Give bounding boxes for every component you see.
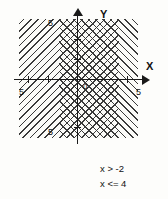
legend-swatch-back-hatch xyxy=(38,177,98,191)
x-tick-neg5 xyxy=(28,76,29,83)
y-axis-label: Y xyxy=(100,10,107,19)
origin-label: 0 xyxy=(83,82,87,91)
x-tick-label-right: 5 xyxy=(136,88,141,97)
plot-area xyxy=(19,19,138,138)
y-axis-line xyxy=(77,13,78,144)
x-axis-line xyxy=(14,79,144,80)
x-tick-neg3 xyxy=(48,76,49,83)
x-tick-5 xyxy=(127,76,128,83)
legend-swatch-forward-hatch xyxy=(38,162,98,176)
legend-label-2: x <= 4 xyxy=(100,178,126,189)
y-axis-arrow-icon xyxy=(73,8,83,16)
y-tick-5 xyxy=(74,39,81,40)
y-tick-neg5 xyxy=(74,127,81,128)
x-tick-label-left: 5 xyxy=(19,88,24,97)
inequality-graph-figure: Y X 5 5 5 5 0 x > -2 x <= 4 xyxy=(0,0,168,199)
x-axis-label: X xyxy=(146,62,153,71)
legend: x > -2 x <= 4 xyxy=(38,162,164,194)
y-tick-3 xyxy=(74,59,81,60)
x-axis-arrow-icon xyxy=(142,75,150,85)
y-tick-label-top: 5 xyxy=(48,19,53,28)
y-tick-label-bottom: 5 xyxy=(48,128,53,137)
legend-label-1: x > -2 xyxy=(100,163,124,174)
